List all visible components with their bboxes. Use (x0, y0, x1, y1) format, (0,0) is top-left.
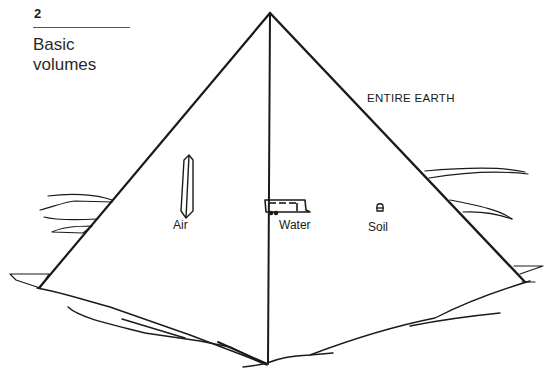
pyramid-center-edge (268, 13, 270, 364)
thimble-icon (376, 204, 384, 211)
pyramid-left-edge (39, 13, 270, 288)
entire-earth-label: ENTIRE EARTH (367, 92, 455, 104)
water-label: Water (279, 218, 311, 232)
pyramid-diagram (0, 0, 550, 377)
air-label: Air (173, 218, 188, 232)
soil-label: Soil (368, 220, 388, 234)
base-sketch-lines (37, 281, 530, 367)
right-sketch-lines (425, 168, 543, 282)
trailer-icon (265, 200, 310, 215)
pyramid-right-edge (270, 13, 525, 282)
obelisk-icon (181, 155, 193, 218)
left-sketch-lines (10, 194, 112, 288)
